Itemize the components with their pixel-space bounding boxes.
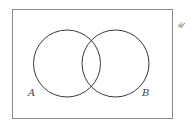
set-a-label: A [28, 88, 35, 98]
venn-diagram [0, 0, 191, 124]
set-b-circle [82, 30, 149, 97]
set-b-label: B [142, 88, 149, 98]
universal-set-label: 𝒰 [176, 22, 183, 30]
set-a-circle [34, 30, 101, 97]
